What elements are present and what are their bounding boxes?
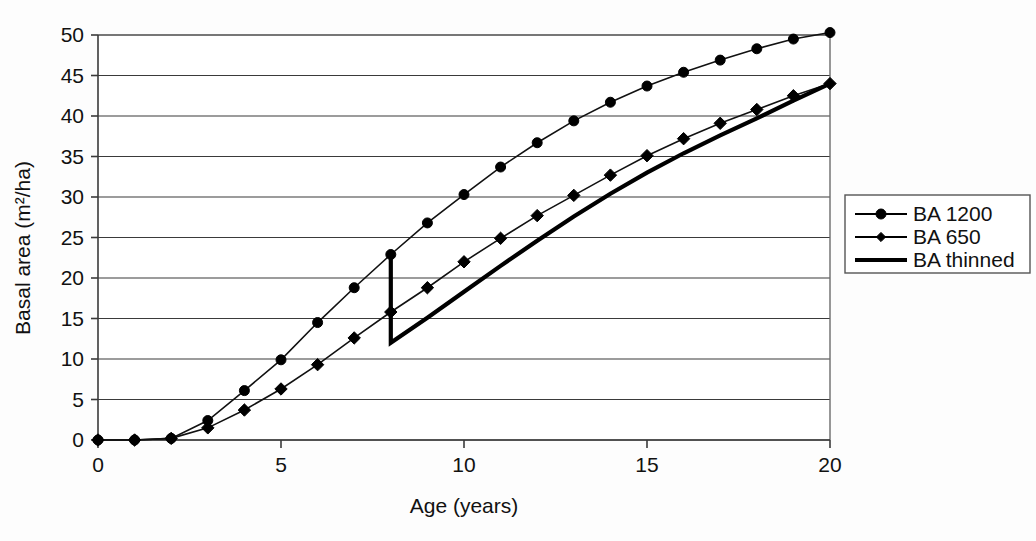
y-tick-label-25: 25 (61, 226, 84, 249)
data-point-0-10 (459, 190, 469, 200)
y-tick-label-50: 50 (61, 23, 84, 46)
data-point-0-18 (752, 44, 762, 54)
data-point-0-20 (825, 28, 835, 38)
y-tick-label-10: 10 (61, 347, 84, 370)
data-point-0-12 (532, 138, 542, 148)
y-tick-label-35: 35 (61, 145, 84, 168)
data-point-0-11 (496, 162, 506, 172)
legend-label: BA 1200 (913, 202, 992, 225)
x-tick-label-0: 0 (92, 453, 104, 476)
basal-area-line-chart: 05101520253035404550 05101520 BA 1200BA … (0, 0, 1036, 541)
x-tick-label-10: 10 (452, 453, 475, 476)
x-axis-ticks: 05101520 (92, 440, 842, 476)
y-tick-label-30: 30 (61, 185, 84, 208)
data-point-0-5 (276, 355, 286, 365)
data-point-0-13 (569, 116, 579, 126)
legend-marker-circle-icon (876, 209, 886, 219)
chart-legend: BA 1200BA 650BA thinned (845, 195, 1030, 273)
x-tick-label-20: 20 (818, 453, 841, 476)
y-tick-label-40: 40 (61, 104, 84, 127)
data-point-0-17 (715, 55, 725, 65)
y-tick-label-15: 15 (61, 307, 84, 330)
x-axis-title: Age (years) (410, 494, 519, 517)
x-tick-label-15: 15 (635, 453, 658, 476)
y-axis-ticks: 05101520253035404550 (61, 23, 98, 451)
y-tick-label-45: 45 (61, 64, 84, 87)
data-point-0-16 (679, 67, 689, 77)
data-point-0-14 (605, 97, 615, 107)
legend-label: BA 650 (913, 225, 981, 248)
x-tick-label-5: 5 (275, 453, 287, 476)
y-tick-label-20: 20 (61, 266, 84, 289)
chart-figure: 05101520253035404550 05101520 BA 1200BA … (0, 0, 1036, 541)
data-point-0-4 (239, 386, 249, 396)
legend-label: BA thinned (913, 248, 1015, 271)
data-point-0-7 (349, 283, 359, 293)
data-point-0-19 (788, 34, 798, 44)
data-point-0-9 (422, 218, 432, 228)
data-point-0-15 (642, 81, 652, 91)
y-tick-label-0: 0 (72, 428, 84, 451)
y-tick-label-5: 5 (72, 388, 84, 411)
data-point-0-6 (313, 318, 323, 328)
y-axis-title: Basal area (m²/ha) (11, 161, 34, 335)
